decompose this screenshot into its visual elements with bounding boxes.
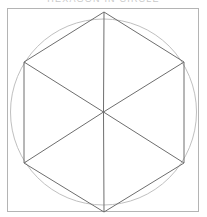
spoke-to-upper-right: [104, 62, 185, 112]
figure-screenshot: HEXAGON IN CIRCLE: [0, 0, 207, 217]
figure-frame: [8, 9, 199, 212]
center-spokes: [24, 12, 184, 212]
spoke-to-bottom: [104, 112, 105, 212]
spoke-to-lower-right: [104, 112, 185, 163]
geometry-figure: [0, 0, 207, 217]
spoke-to-lower-left: [24, 112, 104, 163]
spoke-to-upper-left: [24, 62, 104, 112]
spoke-to-top: [104, 12, 105, 112]
